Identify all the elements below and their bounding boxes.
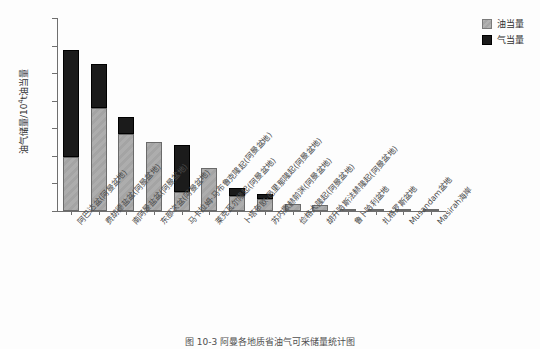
gas-swatch-icon [482, 35, 492, 45]
figure-container: 油气储量/104t油当量 020000400006000080000100000… [0, 0, 540, 349]
figure-caption: 图 10-3 阿曼各地质省油气可采储量统计图 [0, 335, 540, 348]
oil-swatch-icon [482, 19, 492, 29]
legend-item-oil: 油当量 [482, 17, 524, 30]
legend-item-gas: 气当量 [482, 33, 524, 46]
legend-label-oil: 油当量 [497, 17, 524, 30]
x-axis-labels: 阿巴达盆(阿曼盆地)费胡德盐盆(阿曼盆地)南阿曼盐盆(阿曼盆地)东部次盆(阿曼盆… [0, 0, 540, 349]
legend-label-gas: 气当量 [497, 33, 524, 46]
chart-legend: 油当量 气当量 [482, 17, 524, 49]
